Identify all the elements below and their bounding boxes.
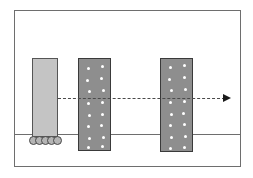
speck-dot (87, 146, 90, 149)
speck-dot (169, 124, 172, 127)
roller-wheels (29, 136, 63, 146)
speck-dot (101, 145, 104, 148)
speck-dot (182, 112, 185, 115)
speck-dot (87, 102, 90, 105)
physics-diagram (0, 0, 253, 178)
speck-dot (169, 66, 172, 69)
speck-dot (102, 89, 105, 92)
speck-dot (100, 124, 103, 127)
speck-dot (170, 136, 173, 139)
trajectory-dashed-line (58, 98, 225, 99)
arrow-head-icon (223, 94, 231, 102)
block-target-1 (78, 58, 111, 151)
speck-dot (88, 90, 91, 93)
speck-dot (183, 100, 186, 103)
speck-dot (169, 101, 172, 104)
speck-dot (170, 89, 173, 92)
speck-dot (183, 123, 186, 126)
speck-dot (183, 64, 186, 67)
speck-dot (169, 147, 172, 150)
block-cart (32, 58, 58, 137)
speck-dot (87, 67, 90, 70)
speck-dot (101, 113, 104, 116)
speck-dot (168, 78, 171, 81)
block-target-2 (160, 58, 193, 152)
speck-dot (184, 88, 187, 91)
speck-dot (101, 65, 104, 68)
roller-wheel (53, 136, 62, 145)
speck-dot (101, 101, 104, 104)
speck-dot (170, 113, 173, 116)
speck-dot (184, 135, 187, 138)
speck-dot (88, 114, 91, 117)
speck-dot (88, 137, 91, 140)
speck-dot (102, 136, 105, 139)
speck-dot (86, 79, 89, 82)
speck-dot (183, 76, 186, 79)
speck-dot (100, 77, 103, 80)
speck-dot (183, 146, 186, 149)
speck-dot (87, 125, 90, 128)
